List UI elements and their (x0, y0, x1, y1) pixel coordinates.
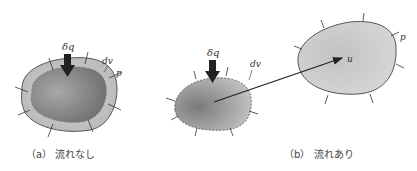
pressure-label: p (116, 68, 122, 78)
volume-label: dv (102, 56, 113, 66)
heat-label: δq (62, 41, 74, 52)
pressure-label: p (400, 32, 406, 42)
heat-label: δq (207, 47, 219, 58)
volume-label: dv (250, 59, 261, 69)
panel-a: δq dv p （a） 流れなし (15, 41, 122, 160)
panel-b: δq dv p u （b） 流れあり (166, 13, 406, 160)
inner-fluid-element (31, 67, 106, 122)
velocity-label: u (347, 54, 353, 64)
diagram-canvas: δq dv p （a） 流れなし δq dv (0, 0, 417, 171)
caption-a: （a） 流れなし (26, 148, 95, 160)
small-fluid-element (175, 78, 251, 131)
caption-b: （b） 流れあり (284, 148, 354, 160)
